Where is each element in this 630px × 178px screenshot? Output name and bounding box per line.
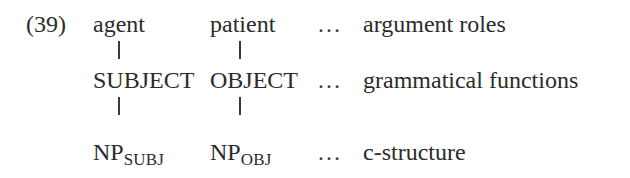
example-number: (39): [26, 12, 66, 36]
row3-label: c-structure: [363, 140, 466, 164]
link-line-subject-np: [118, 97, 120, 115]
np-obj-base: NP: [210, 139, 241, 165]
row2-label: grammatical functions: [363, 68, 578, 92]
row1-label: argument roles: [363, 12, 506, 36]
row1-patient: patient: [210, 12, 275, 36]
link-line-object-np: [239, 97, 241, 115]
row3-ellipsis: …: [317, 140, 341, 164]
np-subj-base: NP: [93, 139, 124, 165]
link-line-patient-object: [239, 41, 241, 59]
row3-np-subj: NPSUBJ: [93, 140, 164, 164]
row3-np-obj: NPOBJ: [210, 140, 272, 164]
row1-ellipsis: …: [317, 12, 341, 36]
row1-agent: agent: [93, 12, 145, 36]
row2-subject: SUBJECT: [93, 68, 194, 92]
row2-object: OBJECT: [210, 68, 298, 92]
link-line-agent-subject: [118, 41, 120, 59]
np-subj-subscript: SUBJ: [124, 150, 165, 169]
row2-ellipsis: …: [317, 68, 341, 92]
np-obj-subscript: OBJ: [241, 150, 272, 169]
